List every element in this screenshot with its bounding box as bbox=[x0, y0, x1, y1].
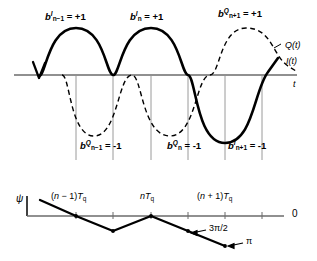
i-signal-curve bbox=[33, 28, 278, 143]
figure-iq-waveforms-and-phase: bIn−1 = +1 bIn = +1 bQn+1 = +1 Q(t) I(t)… bbox=[0, 0, 317, 261]
signal-label-q: Q(t) bbox=[285, 41, 301, 50]
bit-label-q-n: bQn = -1 bbox=[167, 140, 201, 152]
q-label-leader bbox=[274, 44, 281, 48]
bit-label-i-n-plus-1: bIn+1 = -1 bbox=[228, 140, 266, 152]
bit-label-i-n-minus-1: bIn−1 = +1 bbox=[45, 11, 86, 23]
bit-label-q-n-plus-1: bQn+1 = +1 bbox=[218, 8, 262, 20]
time-mark-n: nTq bbox=[140, 192, 154, 202]
q-signal-curve bbox=[62, 28, 296, 136]
bit-label-i-n: bIn = +1 bbox=[130, 11, 163, 23]
time-axis-label: t bbox=[293, 80, 296, 89]
psi-axis-label: ψ bbox=[16, 194, 23, 204]
figure-drawing-layer bbox=[0, 0, 317, 261]
phase-zero-label: 0 bbox=[292, 209, 298, 219]
phase-annotation-pi: π bbox=[246, 237, 252, 246]
phase-annotation-3pi-2: 3π/2 bbox=[209, 224, 228, 233]
bit-label-q-n-minus-1: bQn−1 = -1 bbox=[80, 140, 122, 152]
time-mark-n-minus-1: (n − 1)Tq bbox=[51, 192, 86, 202]
signal-label-i: I(t) bbox=[286, 57, 297, 66]
excess-phase-trajectory bbox=[40, 200, 227, 248]
time-mark-n-plus-1: (n + 1)Tq bbox=[197, 192, 232, 202]
